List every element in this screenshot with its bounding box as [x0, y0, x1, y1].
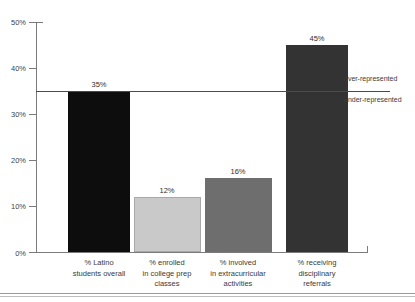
y-tick-label-0: 0% [15, 249, 26, 258]
bar-value-label-0: 35% [91, 80, 106, 89]
bottom-rule-lower [0, 296, 415, 297]
category-label-3: % receiving disciplinary referrals [298, 258, 337, 290]
y-tick-0 [29, 252, 37, 253]
bar-value-label-1: 12% [159, 186, 174, 195]
bar-latino-students-overall [68, 91, 130, 252]
y-tick-label-40: 40% [11, 64, 26, 73]
category-label-0: % Latino students overall [73, 258, 126, 279]
category-label-2: % involved in extracurricular activities [210, 258, 265, 290]
under-represented-label: under-represented [344, 96, 402, 103]
x-axis-line [36, 252, 368, 253]
plot-area [36, 22, 368, 252]
y-tick-label-10: 10% [11, 202, 26, 211]
reference-line-35-percent [36, 91, 390, 92]
bar-value-label-3: 45% [309, 34, 324, 43]
bottom-rule-upper [0, 293, 415, 294]
bar-chart-figure: 50% 40% 30% 20% 10% 0% over-represented … [0, 0, 415, 302]
bar-receiving-disciplinary-referrals [286, 45, 348, 252]
y-tick-label-30: 30% [11, 110, 26, 119]
bar-involved-extracurricular [205, 178, 272, 252]
bar-value-label-2: 16% [230, 167, 245, 176]
y-tick-label-50: 50% [11, 18, 26, 27]
y-tick-label-20: 20% [11, 156, 26, 165]
category-label-1: % enrolled in college prep classes [143, 258, 192, 290]
over-represented-label: over-represented [344, 75, 397, 82]
bar-enrolled-college-prep [134, 197, 201, 252]
